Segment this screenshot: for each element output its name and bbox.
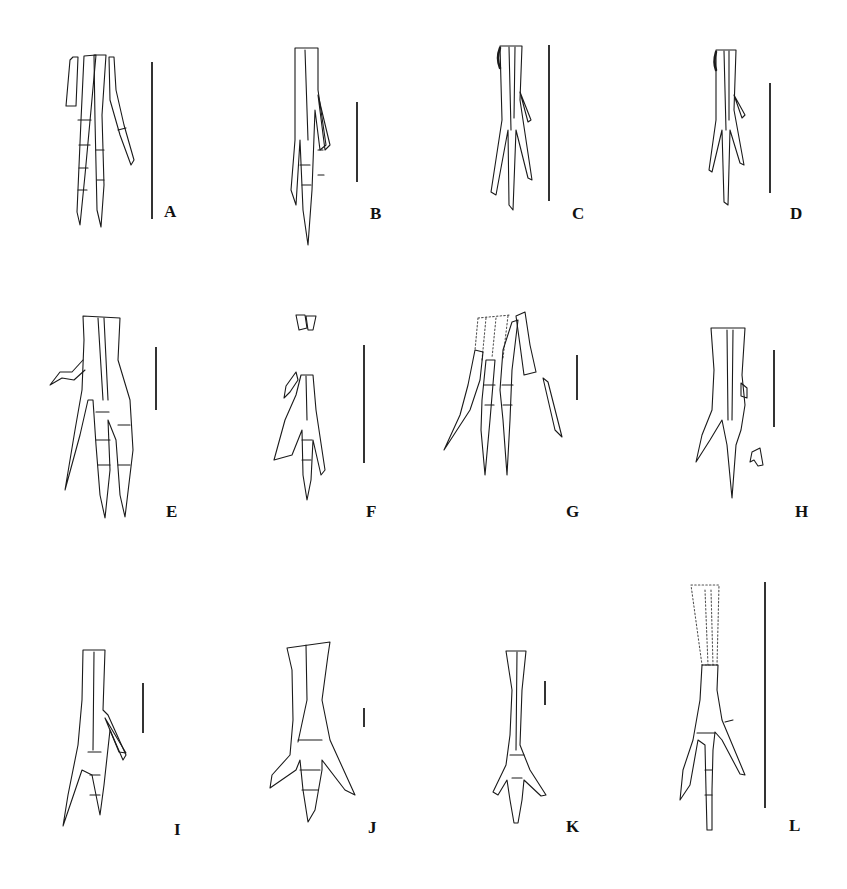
pes-drawing-l	[680, 585, 745, 830]
pes-drawing-g	[444, 312, 562, 475]
figure: A B C D E F G H I J K L	[0, 0, 847, 889]
panel-label-e: E	[166, 502, 177, 522]
pes-drawing-f	[274, 315, 325, 500]
panel-label-k: K	[566, 817, 579, 837]
scale-bar-a	[151, 62, 153, 219]
panel-label-l: L	[789, 816, 800, 836]
scale-bar-h	[773, 350, 775, 427]
scale-bar-j	[363, 708, 365, 727]
scale-bar-g	[576, 355, 578, 400]
panel-label-d: D	[790, 204, 802, 224]
pes-drawing-a	[66, 55, 134, 227]
pes-drawing-h	[696, 328, 763, 498]
scale-bar-e	[155, 347, 157, 410]
panel-label-a: A	[164, 202, 176, 222]
scale-bar-d	[769, 83, 771, 193]
pes-drawing-d	[709, 50, 745, 205]
pes-drawing-k	[493, 651, 546, 823]
panel-label-i: I	[174, 820, 181, 840]
scale-bar-k	[544, 681, 546, 705]
scale-bar-i	[142, 683, 144, 733]
panel-label-h: H	[795, 502, 808, 522]
pes-drawing-i	[63, 650, 126, 826]
scale-bar-c	[548, 45, 550, 201]
scale-bar-f	[363, 345, 365, 463]
scale-bar-l	[764, 582, 766, 808]
scale-bar-b	[356, 102, 358, 182]
pes-drawing-c	[491, 46, 532, 210]
pes-drawing-j	[270, 642, 355, 822]
pes-drawing-e	[50, 316, 133, 518]
pes-drawings	[0, 0, 847, 889]
pes-drawing-b	[291, 48, 330, 245]
panel-label-g: G	[566, 502, 579, 522]
panel-label-c: C	[572, 204, 584, 224]
panel-label-j: J	[368, 818, 377, 838]
panel-label-b: B	[370, 204, 381, 224]
panel-label-f: F	[366, 502, 376, 522]
